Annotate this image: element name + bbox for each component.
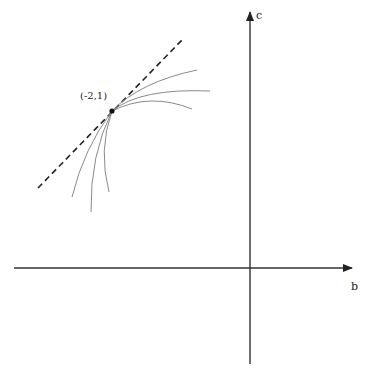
curve-upper-3 (112, 101, 192, 111)
b-axis-label: b (351, 280, 358, 293)
point-marker (109, 108, 114, 113)
phase-plane-svg: b c (-2,1) (0, 0, 370, 378)
diagram-canvas: b c (-2,1) (0, 0, 370, 378)
point-label: (-2,1) (80, 90, 107, 101)
curve-lower-3 (104, 111, 112, 192)
c-axis-label: c (256, 9, 262, 22)
